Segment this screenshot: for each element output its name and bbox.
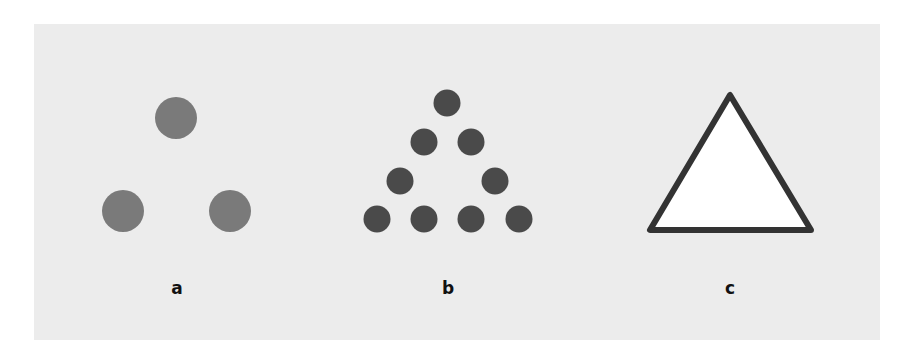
panel-b-dot-triangle: [364, 90, 533, 233]
dark-dot: [411, 206, 438, 233]
dark-dot: [506, 206, 533, 233]
dark-dot: [387, 168, 414, 195]
dark-dot: [434, 90, 461, 117]
gray-circle: [102, 190, 144, 232]
dark-dot: [364, 206, 391, 233]
outline-triangle: [650, 95, 811, 230]
dark-dot: [411, 129, 438, 156]
dark-dot: [458, 129, 485, 156]
gray-circle: [209, 190, 251, 232]
panel-c-outline-triangle: [650, 95, 811, 230]
dark-dot: [482, 168, 509, 195]
panel-a-label: a: [171, 278, 182, 298]
gray-circle: [155, 97, 197, 139]
figure-canvas: [0, 0, 907, 363]
panel-c-label: c: [725, 278, 735, 298]
dark-dot: [458, 206, 485, 233]
panel-b-label: b: [442, 278, 454, 298]
panel-a-three-circles: [102, 97, 251, 232]
